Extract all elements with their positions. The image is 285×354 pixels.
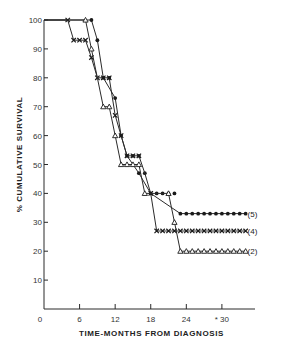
y-tick-label: 30	[33, 218, 42, 227]
x-tick-label: 0	[38, 315, 43, 324]
filled-circle-marker	[208, 212, 212, 216]
filled-circle-marker	[113, 96, 117, 100]
y-tick-label: 70	[33, 103, 42, 112]
survival-curve	[44, 20, 246, 231]
filled-circle-marker	[238, 212, 242, 216]
y-tick-label: 50	[33, 161, 42, 170]
survival-chart: 10203040506070809010006121824* 30TIME-MO…	[0, 0, 285, 354]
series-2	[44, 17, 248, 253]
survival-curve	[44, 20, 246, 251]
y-tick-label: 10	[33, 276, 42, 285]
triangle-marker	[89, 46, 94, 51]
y-tick-label: 60	[33, 132, 42, 141]
y-tick-label: 20	[33, 247, 42, 256]
filled-circle-marker	[90, 18, 94, 22]
series-label: (2)	[248, 247, 258, 256]
series-5	[44, 18, 248, 215]
triangle-marker	[172, 220, 177, 225]
y-axis-title: % CUMULATIVE SURVIVAL	[15, 97, 24, 213]
filled-circle-marker	[214, 212, 218, 216]
x-tick-label: 6	[77, 315, 82, 324]
x-tick-label: 24	[182, 315, 191, 324]
y-tick-label: 90	[33, 45, 42, 54]
labels: 10203040506070809010006121824* 30TIME-MO…	[15, 16, 258, 338]
filled-circle-marker	[173, 192, 177, 196]
x-tick-label: 12	[111, 315, 120, 324]
series-4	[44, 18, 248, 233]
filled-circle-marker	[95, 38, 99, 42]
y-tick-label: 100	[29, 16, 43, 25]
filled-circle-marker	[196, 212, 200, 216]
survival-curve	[44, 20, 246, 214]
series-label: (4)	[248, 227, 258, 236]
filled-circle-marker	[232, 212, 236, 216]
y-tick-label: 40	[33, 189, 42, 198]
axes	[44, 20, 255, 309]
series-label: (5)	[248, 210, 258, 219]
filled-circle-marker	[184, 212, 188, 216]
x-tick-label: * 30	[215, 315, 230, 324]
series-layer	[44, 17, 248, 253]
filled-circle-marker	[190, 212, 194, 216]
y-tick-label: 80	[33, 74, 42, 83]
filled-circle-marker	[226, 212, 230, 216]
x-axis-title: TIME-MONTHS FROM DIAGNOSIS	[79, 329, 224, 338]
filled-circle-marker	[202, 212, 206, 216]
filled-circle-marker	[178, 212, 182, 216]
triangle-marker	[113, 133, 118, 138]
filled-circle-marker	[220, 212, 224, 216]
x-tick-label: 18	[146, 315, 155, 324]
